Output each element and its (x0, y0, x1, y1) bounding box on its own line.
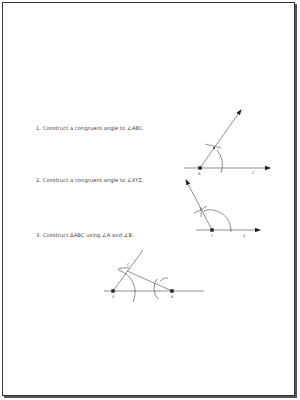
label-c3: C (127, 263, 130, 267)
construction-figures: B C Y Z A B C (0, 0, 300, 400)
arc-1 (217, 150, 222, 173)
ray-yx (186, 180, 212, 230)
figure-angle-abc: B C (184, 110, 270, 176)
arc-3a (118, 270, 135, 302)
ray-ba (200, 110, 241, 168)
figure-angle-xyz: Y Z (186, 180, 260, 238)
point-b (198, 166, 201, 169)
point-y (210, 228, 213, 231)
arc-3b (154, 279, 158, 299)
ray-a (113, 250, 143, 291)
label-c: C (252, 171, 255, 175)
label-z: Z (243, 234, 246, 238)
point-a (111, 289, 114, 292)
label-a: A (112, 295, 115, 299)
label-b3: B (171, 295, 174, 299)
figure-triangle-abc: A B C (104, 250, 204, 302)
arc-mark-2a (194, 206, 207, 213)
label-b: B (198, 172, 201, 176)
side-bc (127, 271, 172, 291)
arc-mark-3b (160, 278, 168, 281)
point-b3 (170, 289, 173, 292)
arc-mark-3a (118, 268, 129, 269)
label-y: Y (211, 234, 214, 238)
arc-mark-1 (205, 144, 221, 148)
intersection-1 (213, 147, 215, 149)
